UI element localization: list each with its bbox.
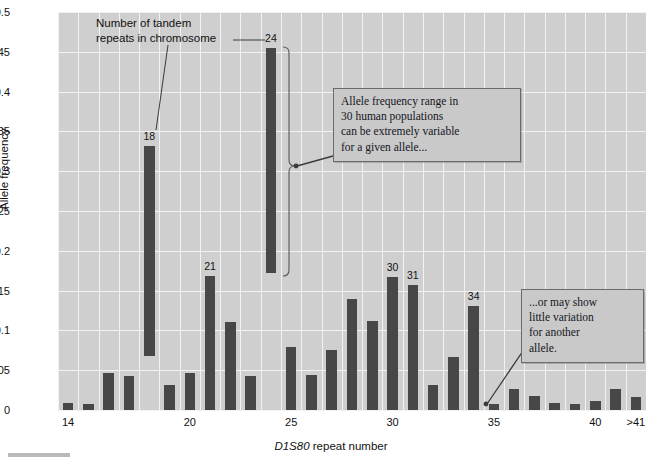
bar (306, 375, 317, 410)
bar (63, 403, 74, 410)
gridline-vertical (322, 12, 323, 410)
bar (164, 385, 175, 410)
little-variation-line-4: allele. (529, 341, 636, 356)
gridline-vertical (200, 12, 201, 410)
bar (266, 48, 277, 273)
y-axis-tick-label: 0.05 (0, 364, 10, 376)
bar (326, 350, 337, 410)
bar (83, 404, 94, 410)
bar-value-label: 18 (143, 130, 155, 142)
bar (124, 376, 135, 410)
gridline-vertical (78, 12, 79, 410)
bar (205, 276, 216, 410)
bar-value-label: 34 (468, 290, 480, 302)
x-axis-tick-label: 30 (386, 416, 398, 428)
gridline-vertical (362, 12, 363, 410)
gridline-horizontal (58, 52, 646, 53)
x-axis-tick-label: >41 (627, 416, 646, 428)
gridline-vertical (139, 12, 140, 410)
y-axis-tick-label: 0 (0, 404, 10, 416)
figure-allele-frequency-histogram: 00.050.10.150.20.250.30.350.40.450.5 All… (0, 0, 662, 467)
bar (489, 404, 500, 410)
gridline-horizontal (58, 12, 646, 13)
gridline-vertical (99, 12, 100, 410)
little-variation-line-2: little variation (529, 310, 636, 325)
bar-value-label: 21 (204, 260, 216, 272)
bar (103, 373, 114, 410)
variable-allele-line-1: Allele frequency range in (341, 94, 513, 109)
y-axis-tick-label: 0.1 (0, 324, 10, 336)
tandem-repeats-line-1: Number of tandem (96, 16, 276, 31)
bar-value-label: 30 (387, 261, 399, 273)
x-axis-tick-label: 25 (285, 416, 297, 428)
y-axis-tick-label: 0.5 (0, 6, 10, 18)
little-variation-line-3: for another (529, 325, 636, 340)
bar (185, 373, 196, 410)
variable-allele-line-4: for a given allele... (341, 140, 513, 155)
bar (286, 347, 297, 410)
bar (408, 285, 419, 410)
x-axis-tick-label: 14 (62, 416, 74, 428)
gridline-vertical (484, 12, 485, 410)
gridline-vertical (382, 12, 383, 410)
bar (529, 396, 540, 410)
gridline-vertical (159, 12, 160, 410)
variable-allele-line-2: 30 human populations (341, 109, 513, 124)
x-axis-tick-label: 20 (184, 416, 196, 428)
bar (367, 321, 378, 410)
gridline-vertical (504, 12, 505, 410)
gridline-horizontal (58, 410, 646, 411)
bar (549, 403, 560, 410)
x-axis-tick-label: 40 (589, 416, 601, 428)
bar-value-label: 31 (407, 269, 419, 281)
y-axis-tick-label: 0.15 (0, 285, 10, 297)
x-axis-label-italic: D1S80 (274, 440, 309, 452)
little-variation-callout: ...or may show little variation for anot… (521, 289, 644, 363)
gridline-vertical (301, 12, 302, 410)
bar (590, 401, 601, 410)
bar (468, 306, 479, 410)
tandem-repeats-line-2: repeats in chromosome (96, 31, 276, 46)
bar (387, 277, 398, 410)
bar (225, 322, 236, 410)
bottom-rule (8, 453, 70, 457)
gridline-vertical (58, 12, 59, 410)
y-axis-tick-label: 0.2 (0, 245, 10, 257)
bar (631, 397, 642, 410)
bar (428, 385, 439, 410)
bar (347, 299, 358, 410)
y-axis-tick-label: 0.45 (0, 46, 10, 58)
variable-allele-line-3: can be extremely variable (341, 124, 513, 139)
bar (570, 404, 581, 410)
x-axis-label: D1S80 repeat number (0, 440, 662, 452)
gridline-vertical (180, 12, 181, 410)
gridline-vertical (220, 12, 221, 410)
gridline-vertical (119, 12, 120, 410)
bar (509, 389, 520, 410)
bar (144, 146, 155, 356)
variable-allele-callout: Allele frequency range in 30 human popul… (333, 88, 521, 162)
gridline-vertical (464, 12, 465, 410)
x-axis-tick-label: 35 (488, 416, 500, 428)
x-axis-label-rest: repeat number (310, 440, 388, 452)
tandem-repeats-annotation: Number of tandem repeats in chromosome (96, 16, 276, 45)
gridline-vertical (261, 12, 262, 410)
y-axis-tick-label: 0.4 (0, 86, 10, 98)
bar (245, 376, 256, 410)
gridline-vertical (443, 12, 444, 410)
little-variation-line-1: ...or may show (529, 295, 636, 310)
gridline-vertical (240, 12, 241, 410)
bar (610, 389, 621, 410)
gridline-vertical (403, 12, 404, 410)
gridline-vertical (281, 12, 282, 410)
gridline-vertical (423, 12, 424, 410)
gridline-vertical (342, 12, 343, 410)
y-axis-label: Allele frequency (0, 128, 10, 210)
bar (448, 357, 459, 410)
